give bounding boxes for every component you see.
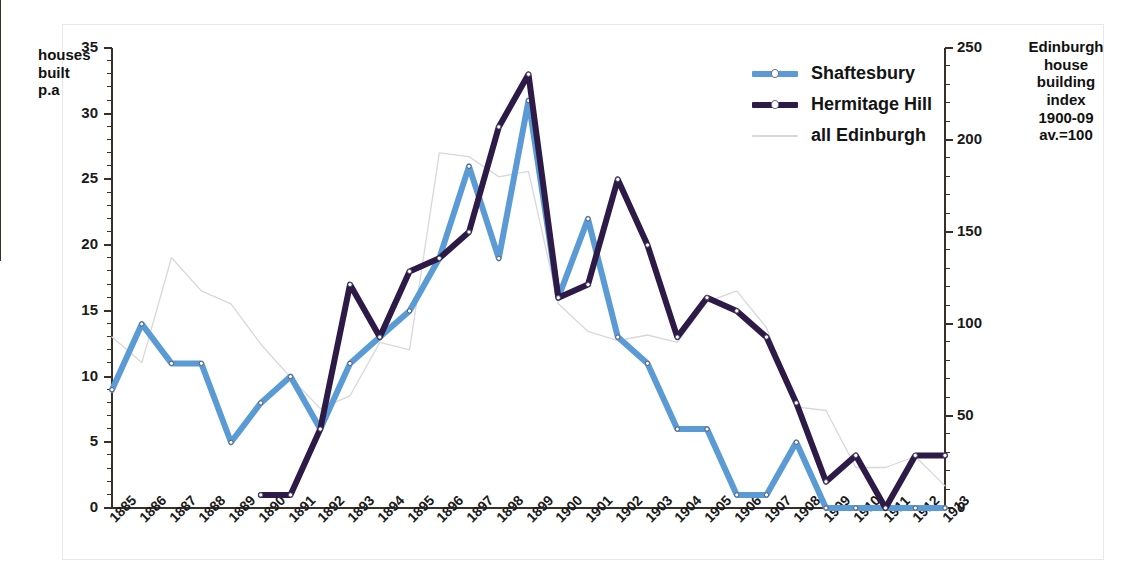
data-point-marker — [318, 427, 322, 431]
data-point-marker — [140, 322, 144, 326]
data-point-marker — [913, 453, 917, 457]
data-point-marker — [288, 375, 292, 379]
legend-label-hermitage-hill: Hermitage Hill — [811, 94, 932, 115]
data-point-marker — [407, 269, 411, 273]
data-point-marker — [586, 217, 590, 221]
data-point-marker — [705, 427, 709, 431]
data-point-marker — [824, 480, 828, 484]
data-point-marker — [437, 256, 441, 260]
data-point-marker — [259, 401, 263, 405]
series-shaftesbury — [110, 99, 947, 511]
data-point-marker — [467, 230, 471, 234]
data-point-marker — [824, 506, 828, 510]
data-point-marker — [497, 256, 501, 260]
data-point-marker — [199, 361, 203, 365]
data-point-marker — [854, 506, 858, 510]
data-point-marker — [378, 335, 382, 339]
legend-item-shaftesbury[interactable]: Shaftesbury — [752, 58, 932, 89]
series-plot — [0, 0, 1121, 572]
data-point-marker — [467, 164, 471, 168]
data-point-marker — [675, 427, 679, 431]
data-point-marker — [675, 335, 679, 339]
legend-item-all-edinburgh[interactable]: all Edinburgh — [752, 120, 932, 151]
data-point-marker — [705, 296, 709, 300]
data-point-marker — [616, 177, 620, 181]
chart-canvas: houses built p.a Edinburgh house buildin… — [0, 0, 1121, 572]
data-point-marker — [259, 493, 263, 497]
data-point-marker — [348, 283, 352, 287]
legend-swatch-shaftesbury — [752, 67, 798, 81]
data-point-marker — [794, 440, 798, 444]
data-point-marker — [526, 72, 530, 76]
data-point-marker — [645, 243, 649, 247]
data-point-marker — [348, 361, 352, 365]
legend-item-hermitage-hill[interactable]: Hermitage Hill — [752, 89, 932, 120]
data-point-marker — [497, 125, 501, 129]
data-point-marker — [616, 335, 620, 339]
data-point-marker — [735, 309, 739, 313]
data-point-marker — [407, 309, 411, 313]
data-point-marker — [943, 453, 947, 457]
data-point-marker — [169, 361, 173, 365]
data-point-marker — [883, 506, 887, 510]
data-point-marker — [913, 506, 917, 510]
data-point-marker — [735, 493, 739, 497]
legend-label-all-edinburgh: all Edinburgh — [811, 125, 926, 146]
data-point-marker — [288, 493, 292, 497]
data-point-marker — [586, 283, 590, 287]
data-point-marker — [943, 506, 947, 510]
data-point-marker — [764, 335, 768, 339]
legend-swatch-hermitage-hill — [752, 98, 798, 112]
data-point-marker — [645, 361, 649, 365]
legend-swatch-all-edinburgh — [752, 129, 798, 143]
chart-legend: Shaftesbury Hermitage Hill all Edinburgh — [752, 58, 932, 151]
data-point-marker — [556, 296, 560, 300]
data-point-marker — [229, 440, 233, 444]
data-point-marker — [794, 401, 798, 405]
series-line — [112, 101, 945, 508]
data-point-marker — [764, 493, 768, 497]
legend-label-shaftesbury: Shaftesbury — [811, 63, 915, 84]
data-point-marker — [110, 388, 114, 392]
data-point-marker — [854, 453, 858, 457]
